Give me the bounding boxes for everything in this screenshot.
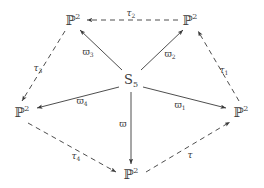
node-p2-left: ℙ2	[15, 106, 30, 119]
edge-label-tau1: τ1	[220, 66, 229, 75]
node-p2-top-right: ℙ2	[183, 14, 198, 27]
edge-label-tau4: τ4	[72, 152, 81, 161]
node-p2-right: ℙ2	[234, 106, 249, 119]
node-p2-bottom: ℙ2	[124, 168, 139, 181]
edge-label-varpi3: ϖ3	[82, 48, 93, 57]
arrow-tau4	[28, 123, 116, 172]
edge-label-varpi4: ϖ4	[76, 97, 87, 106]
edge-label-varpi: ϖ	[119, 120, 126, 129]
edge-label-tau2: τ2	[127, 9, 136, 18]
arrow-tau1	[198, 31, 239, 101]
edge-label-tau3: τ3	[34, 64, 43, 73]
node-p2-top-left: ℙ2	[66, 14, 81, 27]
commutative-diagram: ℙ2 ℙ2 ℙ2 ℙ2 ℙ2 S5 ϖ3 ϖ2 ϖ1 ϖ ϖ4 τ2 τ1 τ	[0, 0, 264, 188]
arrow-varpi2	[141, 30, 183, 70]
edge-label-tau: τ	[188, 151, 193, 160]
arrow-tau3	[22, 31, 65, 101]
edge-label-varpi2: ϖ2	[164, 50, 175, 59]
edge-layer	[0, 0, 264, 188]
node-s5-center: S5	[124, 73, 138, 86]
arrow-tau	[146, 122, 230, 172]
edge-label-varpi1: ϖ1	[174, 101, 185, 110]
